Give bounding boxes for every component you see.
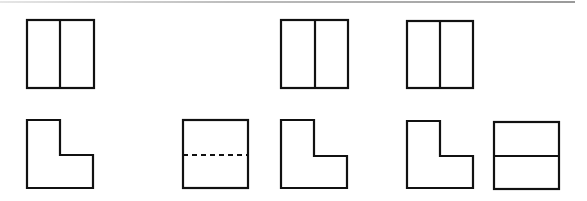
figure-top-2-square-vertical-split: [281, 20, 348, 88]
figure-top-1-square-vertical-split: [27, 20, 94, 88]
figure-bottom-3-l-shape: [281, 120, 347, 188]
figure-bottom-4-l-shape: [407, 121, 473, 188]
diagram-canvas: [0, 0, 587, 201]
bottom-row: [27, 120, 559, 189]
l-shape-outline: [281, 120, 347, 188]
figure-bottom-5-square-horizontal-split: [494, 122, 559, 189]
figure-top-3-square-vertical-split: [407, 21, 473, 88]
figure-bottom-2-square-dashed-horizontal: [183, 120, 248, 188]
top-row: [27, 20, 473, 88]
l-shape-outline: [27, 120, 93, 188]
l-shape-outline: [407, 121, 473, 188]
figure-bottom-1-l-shape: [27, 120, 93, 188]
figures-group: [27, 20, 559, 189]
